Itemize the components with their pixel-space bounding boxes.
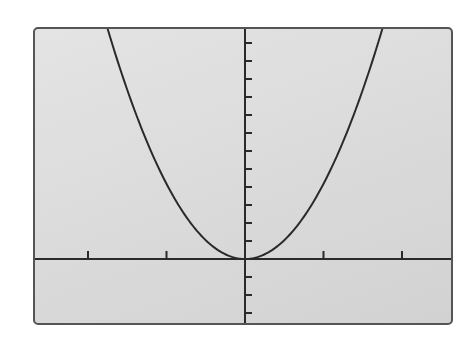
plot-area: [35, 29, 453, 325]
y-axis-ticks: [245, 43, 252, 313]
graph-screen: [33, 27, 453, 325]
